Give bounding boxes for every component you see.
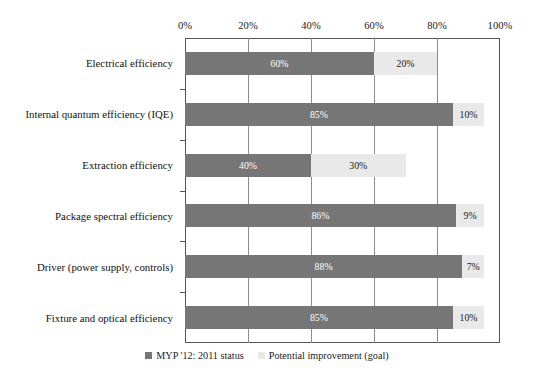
category-label: Internal quantum efficiency (IQE) xyxy=(25,108,173,120)
bar-row: 86%9% xyxy=(185,204,500,227)
bar-row: 60%20% xyxy=(185,52,500,75)
gridline xyxy=(311,38,312,343)
legend-label: Potential improvement (goal) xyxy=(269,350,389,361)
bar-row: 85%10% xyxy=(185,306,500,329)
bar-value-label: 9% xyxy=(464,210,477,221)
bar-value-label: 88% xyxy=(315,261,333,272)
category-tick-mark xyxy=(180,241,185,242)
axis-line-top xyxy=(185,38,500,39)
bar-value-label: 85% xyxy=(310,109,328,120)
category-tick-mark xyxy=(180,89,185,90)
legend-item[interactable]: MYP '12: 2011 status xyxy=(145,350,243,361)
category-axis-labels: Electrical efficiencyInternal quantum ef… xyxy=(0,38,179,343)
x-axis-tick-label: 100% xyxy=(488,20,513,31)
plot-area: 60%20%85%10%40%30%86%9%88%7%85%10% xyxy=(185,38,500,343)
x-axis-tick-label: 80% xyxy=(427,20,447,31)
bar-value-label: 7% xyxy=(467,261,480,272)
gridline xyxy=(374,38,375,343)
bar-value-label: 20% xyxy=(397,58,415,69)
legend-swatch-goal xyxy=(258,352,265,359)
axis-line-left xyxy=(185,38,186,343)
bar-value-label: 40% xyxy=(239,160,257,171)
bar-segment-status: 60% xyxy=(185,52,374,75)
x-axis-tick-label: 0% xyxy=(178,20,192,31)
bar-value-label: 60% xyxy=(271,58,289,69)
chart-figure: 0%20%40%60%80%100% Electrical efficiency… xyxy=(0,0,534,384)
bar-value-label: 85% xyxy=(310,312,328,323)
chart-legend: MYP '12: 2011 statusPotential improvemen… xyxy=(0,350,534,361)
bar-segment-goal: 20% xyxy=(374,52,437,75)
x-axis-tick-label: 20% xyxy=(238,20,258,31)
bar-segment-status: 86% xyxy=(185,204,456,227)
bar-segment-goal: 10% xyxy=(453,103,485,126)
bar-segment-goal: 10% xyxy=(453,306,485,329)
legend-label: MYP '12: 2011 status xyxy=(156,350,243,361)
bar-segment-status: 85% xyxy=(185,103,453,126)
gridline xyxy=(437,38,438,343)
axis-line-right xyxy=(499,38,500,343)
category-label: Driver (power supply, controls) xyxy=(37,261,173,273)
category-label: Electrical efficiency xyxy=(86,57,173,69)
bar-segment-goal: 7% xyxy=(462,255,484,278)
x-axis-tick-label: 40% xyxy=(301,20,321,31)
legend-item[interactable]: Potential improvement (goal) xyxy=(258,350,389,361)
bar-row: 85%10% xyxy=(185,103,500,126)
category-tick-mark xyxy=(180,191,185,192)
bar-segment-goal: 9% xyxy=(456,204,484,227)
bar-row: 40%30% xyxy=(185,154,500,177)
category-tick-mark xyxy=(180,140,185,141)
category-label: Package spectral efficiency xyxy=(55,210,173,222)
bar-segment-goal: 30% xyxy=(311,154,406,177)
legend-swatch-status xyxy=(145,352,152,359)
axis-line-bottom xyxy=(185,342,500,343)
bar-segment-status: 40% xyxy=(185,154,311,177)
bar-value-label: 10% xyxy=(460,312,478,323)
bar-row: 88%7% xyxy=(185,255,500,278)
bar-segment-status: 85% xyxy=(185,306,453,329)
gridline xyxy=(248,38,249,343)
category-label: Fixture and optical efficiency xyxy=(46,312,173,324)
bar-value-label: 30% xyxy=(349,160,367,171)
category-tick-mark xyxy=(180,292,185,293)
bar-value-label: 10% xyxy=(460,109,478,120)
x-axis-tick-label: 60% xyxy=(364,20,384,31)
bar-segment-status: 88% xyxy=(185,255,462,278)
category-label: Extraction efficiency xyxy=(82,159,173,171)
bar-value-label: 86% xyxy=(311,210,329,221)
